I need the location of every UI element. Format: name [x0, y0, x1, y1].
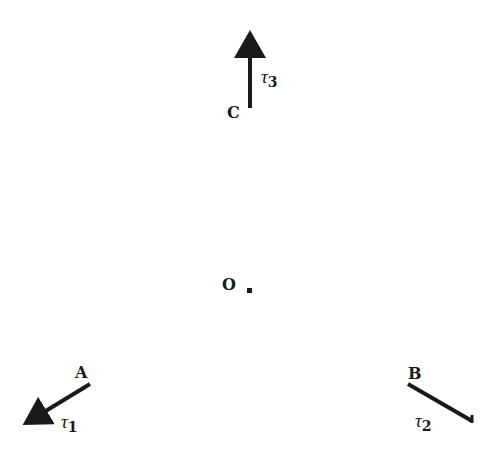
vector-label-tau3: τ3 [261, 66, 278, 90]
vector-label-tau1: τ1 [61, 411, 78, 435]
point-label-c: C [227, 103, 240, 122]
tau1-subscript: 1 [68, 419, 78, 435]
point-label-b: B [408, 364, 422, 383]
point-label-a: A [74, 363, 88, 382]
center-point-o-dot [247, 288, 252, 293]
vector-label-tau2: τ2 [415, 410, 432, 434]
torque-vector-diagram: O A B C τ1 τ2 τ3 [0, 0, 496, 466]
point-label-o: O [222, 275, 236, 294]
vector-tau1-arrow [26, 384, 90, 423]
tau3-subscript: 3 [268, 74, 278, 90]
tau2-subscript: 2 [422, 418, 432, 434]
